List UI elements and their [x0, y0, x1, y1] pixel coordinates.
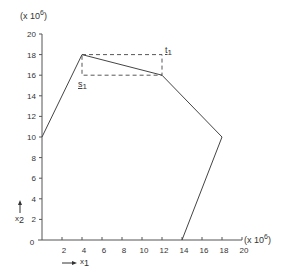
svg-text:16: 16 [27, 71, 36, 80]
svg-text:16: 16 [200, 246, 209, 255]
y-axis-label: x2 [15, 200, 24, 225]
svg-text:14: 14 [27, 92, 36, 101]
svg-text:2: 2 [32, 215, 37, 224]
svg-text:8: 8 [32, 154, 37, 163]
s1-label: s1 [78, 79, 88, 91]
svg-text:12: 12 [160, 246, 169, 255]
svg-text:12: 12 [27, 112, 36, 121]
origin-label: 0 [30, 238, 35, 247]
svg-text:4: 4 [82, 246, 87, 255]
svg-text:20: 20 [240, 246, 249, 255]
svg-text:4: 4 [32, 195, 37, 204]
svg-text:8: 8 [122, 246, 127, 255]
svg-text:18: 18 [27, 51, 36, 60]
arrowhead-right-icon [72, 261, 77, 265]
boundary-line [42, 55, 222, 240]
svg-text:x2: x2 [15, 214, 24, 225]
x-tick-labels: 2 4 6 8 10 12 14 16 18 20 [62, 246, 249, 255]
t1-label: t1 [165, 45, 173, 57]
y-scale-note: (x 106) [20, 9, 47, 21]
svg-text:14: 14 [180, 246, 189, 255]
arrowhead-up-icon [18, 200, 22, 205]
svg-text:20: 20 [27, 30, 36, 39]
svg-text:2: 2 [62, 246, 67, 255]
y-tick-labels: 20 18 16 14 12 10 8 6 4 2 [27, 30, 36, 224]
svg-text:x1: x1 [80, 257, 89, 268]
x-scale-note: (x 106) [244, 233, 271, 245]
chart: 20 18 16 14 12 10 8 6 4 2 0 2 4 6 8 10 1… [0, 0, 281, 278]
svg-text:10: 10 [140, 246, 149, 255]
svg-text:6: 6 [102, 246, 107, 255]
svg-text:10: 10 [27, 133, 36, 142]
svg-text:18: 18 [220, 246, 229, 255]
x-axis-label: x1 [62, 257, 89, 268]
svg-text:6: 6 [32, 174, 37, 183]
